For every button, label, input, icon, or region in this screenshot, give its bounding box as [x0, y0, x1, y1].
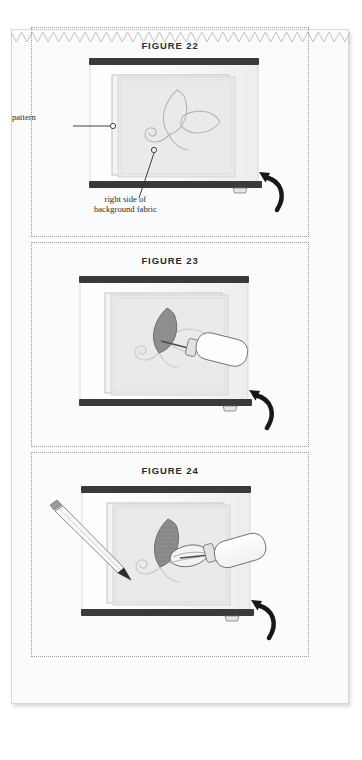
callout-background-fabric-line2: background fabric: [94, 204, 157, 214]
figure-22-illustration: [32, 50, 310, 236]
figure-23-illustration: [32, 265, 310, 447]
figure-panel-22: FIGURE 22: [31, 27, 309, 237]
callout-marker-fabric: [151, 147, 156, 152]
callout-marker-pattern: [110, 123, 115, 128]
callout-background-fabric: right side of background fabric: [94, 194, 157, 214]
figure-24-illustration: [32, 475, 310, 657]
callout-background-fabric-line1: right side of: [94, 194, 157, 204]
figure-panels-container: FIGURE 22: [31, 27, 309, 657]
callout-pattern: pattern: [12, 112, 36, 122]
figure-panel-24: FIGURE 24: [31, 452, 309, 657]
figure-panel-23: FIGURE 23: [31, 242, 309, 447]
